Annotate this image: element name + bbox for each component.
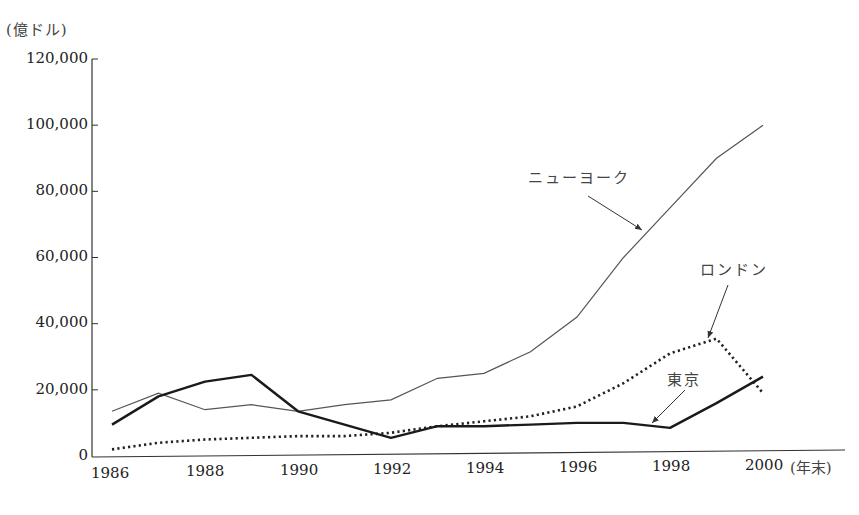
series-new-york <box>112 125 763 411</box>
series-london <box>112 339 763 450</box>
arrow-tokyo <box>652 390 685 423</box>
axes <box>92 59 845 457</box>
arrow-new-york <box>588 196 642 230</box>
x-axis-line <box>92 450 845 457</box>
series-layer <box>112 125 763 449</box>
annotation-arrows <box>588 196 728 423</box>
line-chart: (億ドル) 0 20,000 40,000 60,000 80,000 100,… <box>0 0 859 515</box>
plot-area <box>0 0 859 515</box>
arrow-london <box>708 285 728 338</box>
series-tokyo <box>112 375 763 438</box>
